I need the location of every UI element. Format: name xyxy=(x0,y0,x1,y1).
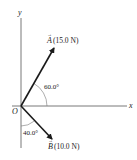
angle-arc-40 xyxy=(21,121,34,126)
vector-b-magnitude: (10.0 N) xyxy=(54,142,80,151)
angle-label-40: 40.0° xyxy=(23,129,38,137)
vector-diagram: y x O 60.0° 40.0° → A (15.0 N) → B (10.0… xyxy=(0,0,137,160)
vector-a-arrow xyxy=(21,48,54,106)
angle-label-60: 60.0° xyxy=(44,83,59,91)
vector-b-label: → B (10.0 N) xyxy=(48,138,80,151)
y-axis-label: y xyxy=(17,8,22,17)
origin-label: O xyxy=(12,107,18,116)
x-axis-label: x xyxy=(128,101,133,110)
vector-a-symbol: A xyxy=(46,36,52,45)
vector-b-symbol: B xyxy=(48,142,53,151)
vector-a-magnitude: (15.0 N) xyxy=(53,36,79,45)
vector-a-label: → A (15.0 N) xyxy=(46,32,79,45)
